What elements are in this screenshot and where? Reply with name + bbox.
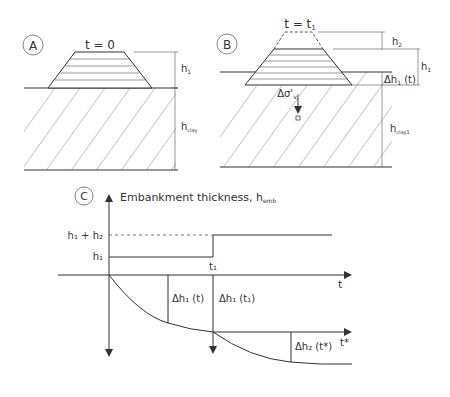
- panel-a: A t = 0: [0, 35, 250, 200]
- time-label-a: t = 0: [85, 38, 115, 52]
- h1-label-a: h1: [181, 63, 191, 75]
- tick-h1: h₁: [93, 251, 103, 262]
- y-axis-title: Embankment thickness, hemb: [120, 191, 276, 204]
- time-label-b: t = t1: [284, 17, 316, 32]
- panel-a-label: A: [29, 39, 38, 53]
- consolidation-diagram: A t = 0: [0, 0, 450, 397]
- dh1-t-label: Δh₁ (t): [172, 293, 204, 304]
- settlement-label-b: Δh1 (t): [384, 74, 416, 86]
- t1-label: t₁: [209, 261, 217, 272]
- hclay-label-a: hclay: [181, 121, 198, 134]
- t-axis-label: t: [338, 278, 343, 291]
- panel-c-label: C: [80, 190, 88, 203]
- embankment-a: [48, 52, 152, 88]
- added-fill-b: [274, 32, 323, 49]
- stress-label: Δσ'vf: [277, 88, 299, 100]
- dh1-t1-label: Δh₁ (t₁): [219, 293, 255, 304]
- stress-point: [296, 116, 300, 120]
- dh2-tstar-label: Δh₂ (t*): [295, 341, 332, 352]
- h1-label-b: h1: [421, 61, 431, 73]
- panel-c: C Embankment thickness, hemb t h₁ + h₂ h…: [58, 187, 352, 364]
- panel-b-label: B: [223, 38, 231, 52]
- panel-b: B t = t1 Δσ'v: [175, 17, 450, 200]
- hclay-label-b: hclay1: [390, 123, 410, 136]
- h2-label-b: h2: [392, 36, 402, 48]
- tstar-axis-label: t*: [340, 337, 349, 348]
- tick-h1h2: h₁ + h₂: [68, 230, 103, 241]
